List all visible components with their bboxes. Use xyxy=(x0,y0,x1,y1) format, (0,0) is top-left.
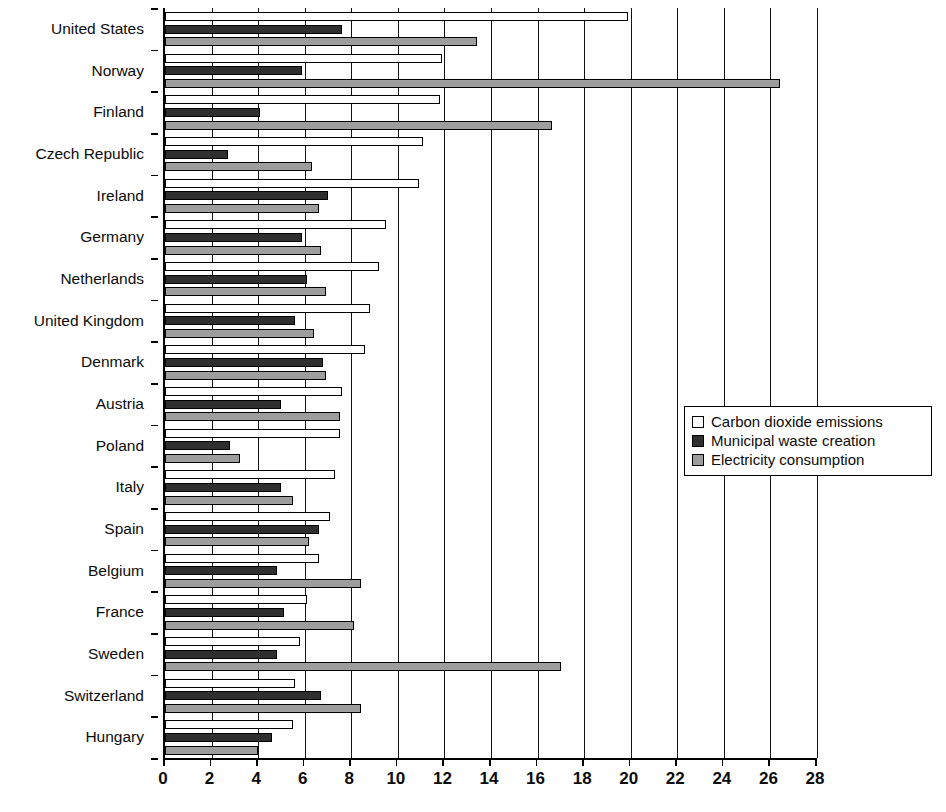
bar-waste xyxy=(165,25,342,34)
bar-co2 xyxy=(165,554,319,563)
bar-waste xyxy=(165,150,228,159)
bar-waste xyxy=(165,691,321,700)
bar-group xyxy=(165,300,817,342)
y-axis-label: Norway xyxy=(91,63,144,79)
bar-elec xyxy=(165,537,309,546)
y-axis-label: Germany xyxy=(80,229,144,245)
bar-waste xyxy=(165,441,230,450)
bar-co2 xyxy=(165,387,342,396)
bar-group xyxy=(165,50,817,92)
bar-elec xyxy=(165,371,326,380)
y-axis-tick xyxy=(151,508,158,510)
y-axis-tick xyxy=(151,591,158,593)
x-axis-tick xyxy=(722,758,724,766)
y-axis-label: Czech Republic xyxy=(35,146,144,162)
bar-elec xyxy=(165,704,361,713)
x-axis-tick xyxy=(396,758,398,766)
bar-co2 xyxy=(165,262,379,271)
x-axis-label: 0 xyxy=(158,770,167,787)
y-axis-tick xyxy=(151,91,158,93)
y-axis-label: Hungary xyxy=(85,729,144,745)
x-axis-tick xyxy=(675,758,677,766)
bar-waste xyxy=(165,233,302,242)
y-axis-tick xyxy=(151,758,158,760)
y-axis-tick xyxy=(151,633,158,635)
bar-waste xyxy=(165,566,277,575)
x-axis-label: 18 xyxy=(573,770,592,787)
legend-item[interactable]: Municipal waste creation xyxy=(692,431,924,450)
bar-co2 xyxy=(165,429,340,438)
bar-elec xyxy=(165,287,326,296)
bar-group xyxy=(165,216,817,258)
bar-group xyxy=(165,633,817,675)
bar-elec xyxy=(165,329,314,338)
x-axis-tick xyxy=(256,758,258,766)
bar-group xyxy=(165,175,817,217)
x-axis-label: 8 xyxy=(345,770,354,787)
bar-elec xyxy=(165,579,361,588)
bar-group xyxy=(165,550,817,592)
x-axis-tick xyxy=(163,758,165,766)
gridline-28 xyxy=(817,8,818,758)
legend-item[interactable]: Carbon dioxide emissions xyxy=(692,412,924,431)
bar-waste xyxy=(165,108,260,117)
y-axis-label: Austria xyxy=(96,396,144,412)
bar-chart: United StatesNorwayFinlandCzech Republic… xyxy=(0,0,946,812)
bar-elec xyxy=(165,37,477,46)
bar-waste xyxy=(165,66,302,75)
y-axis-tick xyxy=(151,341,158,343)
x-axis-tick xyxy=(768,758,770,766)
y-axis-tick xyxy=(151,300,158,302)
y-axis-tick xyxy=(151,8,158,10)
bar-waste xyxy=(165,191,328,200)
bar-co2 xyxy=(165,595,307,604)
y-axis-tick xyxy=(151,50,158,52)
x-axis-tick xyxy=(303,758,305,766)
y-axis-tick xyxy=(151,383,158,385)
x-axis-label: 12 xyxy=(433,770,452,787)
x-axis-tick xyxy=(536,758,538,766)
y-axis-label: Sweden xyxy=(88,646,144,662)
bar-group xyxy=(165,133,817,175)
bar-co2 xyxy=(165,720,293,729)
bar-group xyxy=(165,91,817,133)
bar-elec xyxy=(165,496,293,505)
bar-waste xyxy=(165,650,277,659)
bar-waste xyxy=(165,400,281,409)
bar-waste xyxy=(165,608,284,617)
bar-group xyxy=(165,508,817,550)
legend-item[interactable]: Electricity consumption xyxy=(692,450,924,469)
bar-co2 xyxy=(165,637,300,646)
bar-elec xyxy=(165,746,258,755)
y-axis-label: Ireland xyxy=(97,188,144,204)
bar-co2 xyxy=(165,220,386,229)
x-axis-label: 20 xyxy=(619,770,638,787)
y-axis-tick xyxy=(151,550,158,552)
y-axis-label: United Kingdom xyxy=(34,313,144,329)
bar-co2 xyxy=(165,137,423,146)
bar-elec xyxy=(165,662,561,671)
y-axis-label: Belgium xyxy=(88,563,144,579)
bar-elec xyxy=(165,121,552,130)
bar-group xyxy=(165,258,817,300)
bar-elec xyxy=(165,621,354,630)
bar-co2 xyxy=(165,304,370,313)
y-axis-label: Denmark xyxy=(81,354,144,370)
y-axis-tick xyxy=(151,258,158,260)
y-axis-label: Spain xyxy=(104,521,144,537)
bar-co2 xyxy=(165,95,440,104)
legend-swatch-waste xyxy=(692,435,704,447)
bar-elec xyxy=(165,79,780,88)
y-axis-label: Poland xyxy=(96,438,144,454)
y-axis-labels: United StatesNorwayFinlandCzech Republic… xyxy=(0,8,158,758)
x-axis-label: 26 xyxy=(759,770,778,787)
bar-waste xyxy=(165,483,281,492)
y-axis-label: United States xyxy=(51,21,144,37)
x-axis-tick xyxy=(442,758,444,766)
bar-waste xyxy=(165,316,295,325)
bar-co2 xyxy=(165,12,628,21)
x-axis-tick xyxy=(815,758,817,766)
x-axis-label: 14 xyxy=(480,770,499,787)
bar-waste xyxy=(165,358,323,367)
y-axis-label: Finland xyxy=(93,104,144,120)
